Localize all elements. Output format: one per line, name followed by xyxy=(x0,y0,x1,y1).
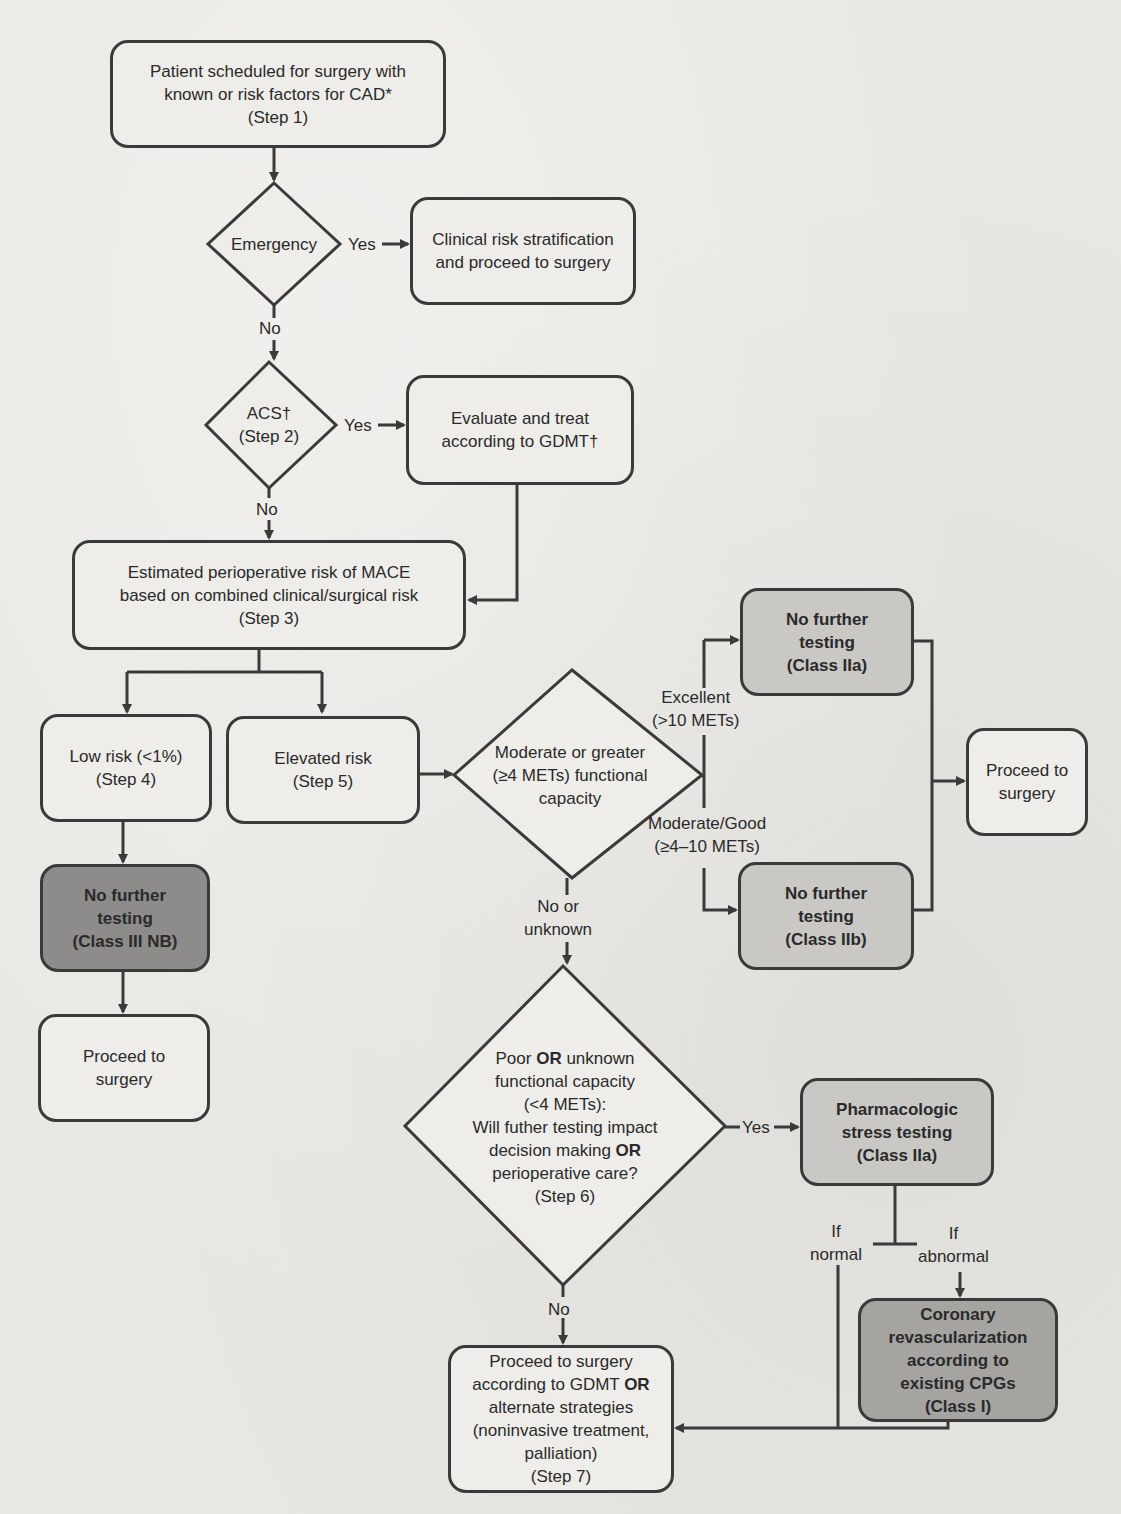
acs-yes-line2: according to GDMT† xyxy=(442,430,599,453)
functional-capacity-label: Moderate or greater (≥4 METs) functional… xyxy=(470,738,670,812)
proceed-right-box: Proceed to surgery xyxy=(966,728,1088,836)
step5-elevated-risk-box: Elevated risk (Step 5) xyxy=(226,716,420,824)
if-normal-line2: normal xyxy=(810,1243,862,1266)
acs-no-label: No xyxy=(256,498,278,521)
step4-low-risk-box: Low risk (<1%) (Step 4) xyxy=(40,714,212,822)
step6-line3: (<4 METs): xyxy=(472,1093,657,1116)
step7-line4: (noninvasive treatment, xyxy=(472,1419,649,1442)
step3-line1: Estimated perioperative risk of MACE xyxy=(120,561,419,584)
if-abnormal-label: If abnormal xyxy=(918,1222,989,1268)
emergency-yes-line1: Clinical risk stratification xyxy=(432,228,613,251)
acs-line2: (Step 2) xyxy=(239,425,299,448)
step7-line1: Proceed to surgery xyxy=(472,1350,649,1373)
step6-line6: perioperative care? xyxy=(472,1162,657,1185)
revasc-line1: Coronary xyxy=(889,1303,1028,1326)
class2a-line2: testing xyxy=(786,631,868,654)
step1-line3: (Step 1) xyxy=(150,106,406,129)
revasc-line5: (Class I) xyxy=(889,1395,1028,1418)
step4-line1: Low risk (<1%) xyxy=(70,745,183,768)
pharm-line1: Pharmacologic xyxy=(836,1098,958,1121)
pharm-line2: stress testing xyxy=(836,1121,958,1144)
acs-yes-line1: Evaluate and treat xyxy=(442,407,599,430)
moderate-good-line1: Moderate/Good xyxy=(648,812,766,835)
step6-line4: Will futher testing impact xyxy=(472,1116,657,1139)
excellent-line2: (>10 METs) xyxy=(652,709,739,732)
coronary-revascularization-box: Coronary revascularization according to … xyxy=(858,1298,1058,1422)
step1-box: Patient scheduled for surgery with known… xyxy=(110,40,446,148)
functional-line3: capacity xyxy=(493,787,648,810)
step7-line6: (Step 7) xyxy=(472,1465,649,1488)
class3nb-line1: No further xyxy=(73,884,178,907)
functional-line2: (≥4 METs) functional xyxy=(493,764,648,787)
proceed-left-box: Proceed to surgery xyxy=(38,1014,210,1122)
proceed-left-line2: surgery xyxy=(83,1068,165,1091)
proceed-right-line1: Proceed to xyxy=(986,759,1068,782)
if-abnormal-line1: If xyxy=(918,1222,989,1245)
step6-line7: (Step 6) xyxy=(472,1185,657,1208)
class3nb-line3: (Class III NB) xyxy=(73,930,178,953)
step6-yes-label: Yes xyxy=(742,1116,770,1139)
step6-label: Poor OR unknown functional capacity (<4 … xyxy=(440,1043,690,1211)
acs-yes-label: Yes xyxy=(344,414,372,437)
moderate-good-line2: (≥4–10 METs) xyxy=(648,835,766,858)
emergency-yes-box: Clinical risk stratification and proceed… xyxy=(410,197,636,305)
class2b-no-testing-box: No further testing (Class IIb) xyxy=(738,862,914,970)
if-normal-line1: If xyxy=(810,1220,862,1243)
emergency-yes-label: Yes xyxy=(348,233,376,256)
proceed-right-line2: surgery xyxy=(986,782,1068,805)
acs-yes-box: Evaluate and treat according to GDMT† xyxy=(406,375,634,485)
step7-line2: according to GDMT OR xyxy=(472,1373,649,1396)
step6-line2: functional capacity xyxy=(472,1070,657,1093)
emergency-yes-line2: and proceed to surgery xyxy=(432,251,613,274)
revasc-line3: according to xyxy=(889,1349,1028,1372)
emergency-label: Emergency xyxy=(208,232,340,256)
moderate-good-label: Moderate/Good (≥4–10 METs) xyxy=(648,812,766,858)
step6-line5: decision making OR xyxy=(472,1139,657,1162)
excellent-line1: Excellent xyxy=(652,686,739,709)
class3nb-box: No further testing (Class III NB) xyxy=(40,864,210,972)
functional-line1: Moderate or greater xyxy=(493,741,648,764)
class2a-no-testing-box: No further testing (Class IIa) xyxy=(740,588,914,696)
step7-box: Proceed to surgery according to GDMT OR … xyxy=(448,1345,674,1493)
class2b-line2: testing xyxy=(785,905,867,928)
step3-line3: (Step 3) xyxy=(120,607,419,630)
emergency-no-label: No xyxy=(259,317,281,340)
revasc-line2: revascularization xyxy=(889,1326,1028,1349)
step4-line2: (Step 4) xyxy=(70,768,183,791)
step1-line1: Patient scheduled for surgery with xyxy=(150,60,406,83)
acs-line1: ACS† xyxy=(239,402,299,425)
step7-line3: alternate strategies xyxy=(472,1396,649,1419)
step7-line5: palliation) xyxy=(472,1442,649,1465)
no-or-unknown-label: No or unknown xyxy=(524,895,592,941)
excellent-label: Excellent (>10 METs) xyxy=(652,686,739,732)
step3-box: Estimated perioperative risk of MACE bas… xyxy=(72,540,466,650)
class3nb-line2: testing xyxy=(73,907,178,930)
no-or-unknown-line2: unknown xyxy=(524,918,592,941)
step6-no-label: No xyxy=(548,1298,570,1321)
if-normal-label: If normal xyxy=(810,1220,862,1266)
pharm-line3: (Class IIa) xyxy=(836,1144,958,1167)
acs-label: ACS† (Step 2) xyxy=(206,400,332,450)
step6-line1: Poor OR unknown xyxy=(472,1047,657,1070)
step5-line2: (Step 5) xyxy=(274,770,371,793)
step5-line1: Elevated risk xyxy=(274,747,371,770)
no-or-unknown-line1: No or xyxy=(524,895,592,918)
class2b-line1: No further xyxy=(785,882,867,905)
step1-line2: known or risk factors for CAD* xyxy=(150,83,406,106)
pharmacologic-stress-testing-box: Pharmacologic stress testing (Class IIa) xyxy=(800,1078,994,1186)
class2a-line3: (Class IIa) xyxy=(786,654,868,677)
class2b-line3: (Class IIb) xyxy=(785,928,867,951)
step3-line2: based on combined clinical/surgical risk xyxy=(120,584,419,607)
class2a-line1: No further xyxy=(786,608,868,631)
revasc-line4: existing CPGs xyxy=(889,1372,1028,1395)
if-abnormal-line2: abnormal xyxy=(918,1245,989,1268)
proceed-left-line1: Proceed to xyxy=(83,1045,165,1068)
